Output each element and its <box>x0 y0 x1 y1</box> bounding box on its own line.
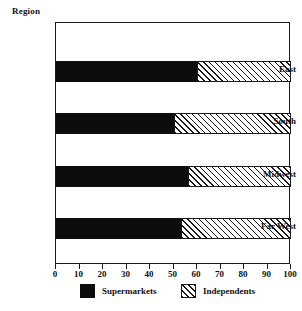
x-tick-label: 70 <box>215 269 224 279</box>
bar-segment-supermarkets <box>56 113 174 134</box>
bar-segment-supermarkets <box>56 166 188 187</box>
x-tick-label: 60 <box>192 269 201 279</box>
category-label-midwest: Midwest <box>250 169 302 179</box>
axis-title-region: Region <box>12 6 40 16</box>
bar-segment-supermarkets <box>56 218 181 239</box>
legend-label: Independents <box>203 286 255 296</box>
chart-screenshot: Region EastSouthMidwestFar West 01020304… <box>0 0 302 311</box>
x-tick-label: 0 <box>53 269 58 279</box>
x-tick-label: 100 <box>283 269 297 279</box>
x-tick-label: 40 <box>145 269 154 279</box>
category-label-east: East <box>250 64 302 74</box>
x-tick-label: 50 <box>168 269 177 279</box>
x-tick-label: 10 <box>74 269 83 279</box>
legend-item-independents: Independents <box>181 283 255 299</box>
legend-label: Supermarkets <box>102 286 157 296</box>
chart-legend: SupermarketsIndependents <box>0 283 302 301</box>
x-tick-label: 80 <box>239 269 248 279</box>
legend-swatch-supermarkets-icon <box>80 284 95 298</box>
category-label-far-west: Far West <box>250 221 302 231</box>
x-tick-label: 20 <box>98 269 107 279</box>
x-tick-label: 30 <box>121 269 130 279</box>
category-label-south: South <box>250 116 302 126</box>
bar-segment-supermarkets <box>56 61 197 82</box>
legend-swatch-independents-icon <box>181 284 196 298</box>
legend-item-supermarkets: Supermarkets <box>80 283 157 299</box>
x-tick-label: 90 <box>262 269 271 279</box>
